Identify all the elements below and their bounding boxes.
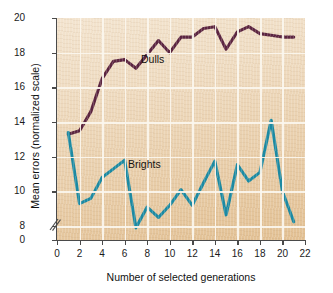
x-tick-label: 8 xyxy=(137,249,157,259)
series-label-dulls: Dulls xyxy=(141,53,164,65)
x-tick xyxy=(260,241,261,245)
x-tick-label: 16 xyxy=(227,249,247,259)
x-tick-label: 6 xyxy=(115,249,135,259)
x-tick-label: 18 xyxy=(250,249,270,259)
x-tick-label: 0 xyxy=(47,249,67,259)
x-tick xyxy=(305,241,306,245)
gridline-horizontal xyxy=(57,53,305,55)
gridline-horizontal xyxy=(57,87,305,89)
x-tick xyxy=(237,241,238,245)
series-label-brights: Brights xyxy=(128,158,161,170)
y-tick xyxy=(52,157,56,158)
y-axis-line xyxy=(56,18,57,240)
y-tick-label: 12 xyxy=(14,152,25,162)
x-tick-label: 22 xyxy=(295,249,315,259)
y-tick-label: 8 xyxy=(19,221,25,231)
x-tick xyxy=(125,241,126,245)
chart-figure: 08101214161820 0246810121416182022 Mean … xyxy=(0,0,333,293)
x-tick-label: 4 xyxy=(92,249,112,259)
y-tick xyxy=(52,53,56,54)
x-tick-label: 20 xyxy=(272,249,292,259)
gridline-vertical xyxy=(192,18,194,240)
y-tick xyxy=(52,191,56,192)
x-tick-label: 2 xyxy=(70,249,90,259)
y-tick-label: 0 xyxy=(19,235,25,245)
x-tick xyxy=(170,241,171,245)
axis-break-icon xyxy=(48,216,61,233)
y-tick-label: 10 xyxy=(14,186,25,196)
gridline-vertical xyxy=(80,18,82,240)
y-tick xyxy=(52,18,56,19)
x-axis-title: Number of selected generations xyxy=(57,271,305,283)
y-tick-label: 18 xyxy=(14,48,25,58)
y-tick xyxy=(52,87,56,88)
x-tick xyxy=(57,241,58,245)
x-tick xyxy=(215,241,216,245)
x-tick xyxy=(147,241,148,245)
gridline-vertical xyxy=(260,18,262,240)
gridline-vertical xyxy=(147,18,149,240)
x-tick xyxy=(102,241,103,245)
x-tick-label: 14 xyxy=(205,249,225,259)
y-tick-label: 16 xyxy=(14,82,25,92)
x-axis-line xyxy=(56,240,306,241)
gridline-vertical xyxy=(215,18,217,240)
x-tick-label: 12 xyxy=(182,249,202,259)
y-tick xyxy=(52,240,56,241)
series-layer xyxy=(57,18,305,240)
plot-area xyxy=(57,18,305,240)
gridline-horizontal xyxy=(57,191,305,193)
x-tick xyxy=(80,241,81,245)
gridline-vertical xyxy=(170,18,172,240)
y-tick-label: 20 xyxy=(14,13,25,23)
gridline-vertical xyxy=(282,18,284,240)
gridline-horizontal xyxy=(57,157,305,159)
gridline-vertical xyxy=(237,18,239,240)
gridline-horizontal xyxy=(57,226,305,228)
x-tick-label: 10 xyxy=(160,249,180,259)
gridline-vertical xyxy=(102,18,104,240)
x-tick xyxy=(282,241,283,245)
y-tick-label: 14 xyxy=(14,117,25,127)
y-tick xyxy=(52,122,56,123)
gridline-vertical xyxy=(125,18,127,240)
y-axis-title: Mean errors (normalized scale) xyxy=(29,24,41,248)
gridline-horizontal xyxy=(57,122,305,124)
x-tick xyxy=(192,241,193,245)
